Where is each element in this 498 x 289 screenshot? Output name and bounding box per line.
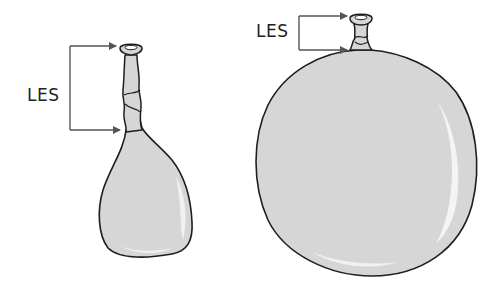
large-balloon bbox=[256, 14, 477, 276]
small-balloon bbox=[99, 44, 192, 257]
diagram-canvas bbox=[0, 0, 498, 289]
les-label-small-balloon: LES bbox=[27, 85, 60, 105]
large-balloon-body bbox=[256, 50, 477, 276]
small-balloon-les-bracket bbox=[70, 46, 120, 130]
large-balloon-les-bracket bbox=[299, 16, 347, 50]
les-label-large-balloon: LES bbox=[256, 21, 289, 41]
